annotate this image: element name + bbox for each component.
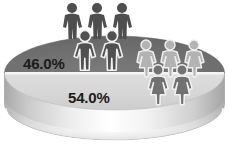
person-icon	[63, 3, 82, 39]
slice-label-back-percent: 46.0%	[23, 55, 65, 72]
pie-chart-figure: 46.0% 54.0%	[0, 0, 229, 147]
pie-chart-canvas	[0, 0, 229, 147]
person-icon	[88, 3, 107, 39]
slice-label-front-percent: 54.0%	[68, 89, 110, 106]
